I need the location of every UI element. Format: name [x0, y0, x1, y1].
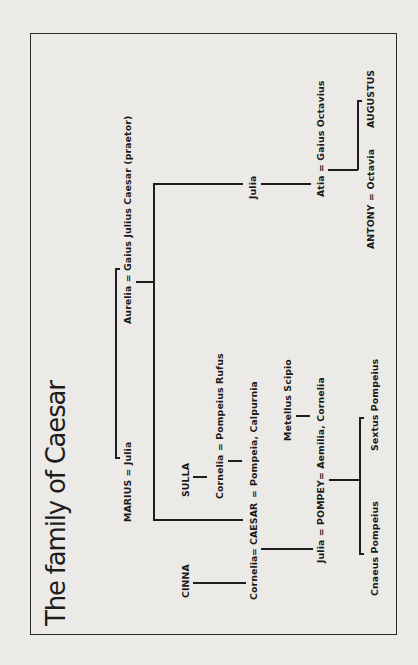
label-marius-julia: MARIUS = Julia: [123, 442, 132, 522]
connector-line: [296, 415, 310, 417]
connector-line: [115, 268, 117, 458]
label-cornelia-rufus: Cornelia = Pompeius Rufus: [215, 353, 224, 499]
label-sulla: SULLA: [181, 463, 190, 497]
connector-line: [357, 100, 359, 170]
diagram-frame: [30, 33, 397, 635]
label-antony-octavia: ANTONY = Octavia: [366, 149, 375, 249]
connector-line: [357, 100, 362, 102]
label-pompey: Julia = POMPEY= Aemilia, Cornelia: [316, 377, 325, 563]
label-augustus: AUGUSTUS: [366, 70, 375, 128]
label-caesar: CAESAR: [249, 503, 258, 545]
label-cinna: CINNA: [181, 564, 190, 598]
connector-line: [193, 476, 207, 478]
connector-line: [261, 183, 311, 185]
connector-line: [359, 553, 364, 555]
connector-line: [193, 582, 246, 584]
label-aurelia-gaius: Aurelia = Gaius Julius Caesar (praetor): [123, 116, 132, 324]
label-eq2: =: [249, 490, 258, 498]
label-eq1: =: [249, 548, 258, 556]
diagram-title: The family of Caesar: [43, 381, 69, 626]
connector-line: [153, 183, 243, 185]
connector-line: [328, 169, 358, 171]
connector-line: [153, 519, 243, 521]
label-atia-octavius: Atia = Gaius Octavius: [316, 81, 325, 197]
label-julia-sister: Julia: [248, 176, 257, 199]
label-cornelia: Cornelia: [249, 555, 258, 600]
connector-line: [136, 281, 154, 283]
connector-line: [115, 268, 120, 270]
label-metellus: Metellus Scipio: [283, 359, 292, 441]
label-cnaeus: Cnaeus Pompeius: [370, 501, 379, 596]
connector-line: [228, 460, 242, 462]
label-sextus: Sextus Pompeius: [370, 359, 379, 451]
connector-line: [261, 548, 313, 550]
connector-line: [359, 417, 364, 419]
connector-line: [359, 417, 361, 554]
label-caesar-wives: Pompeia, Calpurnia: [249, 381, 258, 486]
connector-line: [329, 479, 360, 481]
connector-line: [153, 183, 155, 520]
